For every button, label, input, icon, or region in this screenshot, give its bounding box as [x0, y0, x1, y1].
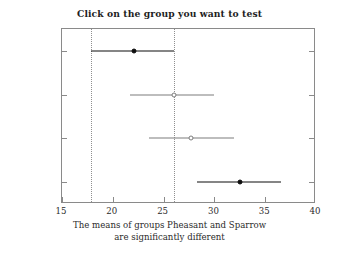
- y-axis-tick: [309, 138, 314, 139]
- y-axis-tick: [62, 138, 67, 139]
- x-axis-tick: [164, 197, 165, 202]
- selected-interval-upper-reference-line: [174, 29, 175, 202]
- y-axis-tick: [309, 182, 314, 183]
- x-axis-tick-label: 40: [310, 206, 321, 216]
- selected-interval-lower-reference-line: [91, 29, 92, 202]
- group-mean-marker[interactable]: [171, 92, 176, 97]
- y-axis-tick: [62, 95, 67, 96]
- chart-title: Click on the group you want to test: [0, 8, 339, 19]
- x-axis-tick: [62, 197, 63, 202]
- x-axis-tick-label: 25: [157, 206, 168, 216]
- y-axis-tick: [62, 51, 67, 52]
- group-mean-marker[interactable]: [237, 180, 242, 185]
- group-mean-marker[interactable]: [189, 136, 194, 141]
- x-axis-tick: [265, 197, 266, 202]
- x-axis-tick-label: 30: [208, 206, 219, 216]
- x-axis-tick-label: 20: [106, 206, 117, 216]
- caption-line-1: The means of groups Pheasant and Sparrow: [0, 220, 339, 232]
- group-mean-marker[interactable]: [132, 48, 137, 53]
- y-axis-tick: [309, 95, 314, 96]
- caption-line-2: are significantly different: [0, 232, 339, 244]
- plot-inner: [62, 29, 314, 202]
- multiple-comparison-figure: Click on the group you want to test Phea…: [0, 0, 339, 258]
- x-axis-tick: [214, 197, 215, 202]
- x-axis-tick: [113, 197, 114, 202]
- x-axis-tick-label: 15: [56, 206, 67, 216]
- plot-area[interactable]: [61, 28, 315, 203]
- y-axis-tick: [62, 182, 67, 183]
- y-axis-tick: [309, 51, 314, 52]
- x-axis-tick-label: 35: [259, 206, 270, 216]
